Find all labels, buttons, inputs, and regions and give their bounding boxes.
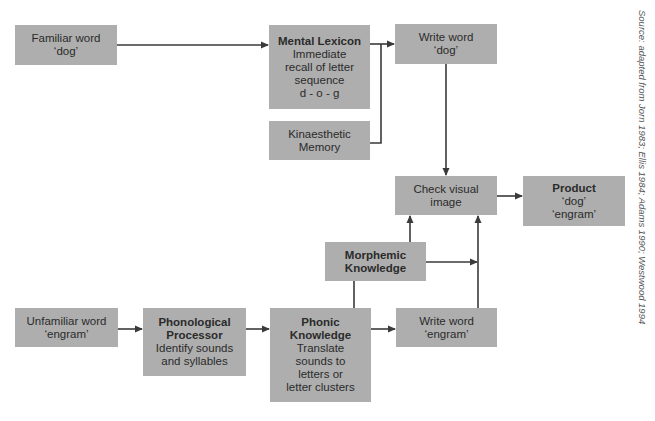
node-write-word-dog: Write word ‘dog’ — [395, 24, 497, 64]
node-text: ‘dog’ — [434, 44, 458, 57]
node-title: Product — [552, 182, 595, 195]
node-text: Immediate — [293, 48, 347, 61]
node-text: Write word — [419, 31, 474, 44]
node-title: Mental Lexicon — [278, 35, 361, 48]
node-title: Knowledge — [290, 329, 351, 342]
node-title: Processor — [166, 329, 222, 342]
node-text: recall of letter — [285, 61, 354, 74]
source-note: Source: adapted from Jorn 1983; Ellis 19… — [634, 10, 648, 330]
node-title: Knowledge — [345, 262, 406, 275]
edge-kinaesthetic-to-write-dog — [370, 44, 381, 143]
node-check-visual-image: Check visual image — [395, 176, 497, 215]
node-text: ‘engram’ — [44, 328, 88, 341]
node-kinaesthetic-memory: Kinaesthetic Memory — [269, 121, 370, 160]
node-text: Identify sounds — [156, 342, 233, 355]
node-write-word-engram: Write word ‘engram’ — [396, 308, 497, 347]
node-product: Product ‘dog’ ‘engram’ — [523, 176, 625, 226]
node-text: and syllables — [161, 355, 227, 368]
node-text: Write word — [419, 315, 474, 328]
node-text: letter clusters — [286, 381, 354, 394]
node-phonic-knowledge: Phonic Knowledge Translate sounds to let… — [270, 308, 371, 402]
node-text: letters or — [298, 368, 343, 381]
node-mental-lexicon: Mental Lexicon Immediate recall of lette… — [269, 25, 370, 109]
node-text: Kinaesthetic — [288, 128, 351, 141]
node-morphemic-knowledge: Morphemic Knowledge — [325, 242, 426, 281]
node-text: ‘engram’ — [552, 208, 596, 221]
node-text: Check visual — [413, 183, 478, 196]
node-text: Translate — [297, 342, 345, 355]
node-title: Phonic — [301, 316, 339, 329]
node-text: ‘engram’ — [424, 328, 468, 341]
node-text: sounds to — [296, 355, 346, 368]
node-text: Familiar word — [31, 32, 100, 45]
node-text: image — [430, 196, 461, 209]
node-text: Unfamiliar word — [27, 315, 107, 328]
node-text: ‘dog’ — [562, 195, 586, 208]
node-phonological-processor: Phonological Processor Identify sounds a… — [143, 308, 246, 376]
node-title: Morphemic — [345, 249, 406, 262]
node-unfamiliar-word: Unfamiliar word ‘engram’ — [15, 308, 118, 347]
node-text: d - o - g — [300, 87, 340, 100]
node-title: Phonological — [158, 316, 230, 329]
node-text: sequence — [295, 74, 345, 87]
node-familiar-word: Familiar word ‘dog’ — [15, 25, 117, 65]
node-text: ‘dog’ — [54, 45, 78, 58]
node-text: Memory — [299, 141, 341, 154]
